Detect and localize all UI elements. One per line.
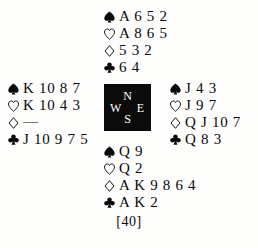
west-hearts-cards: K 10 4 3 [21,98,81,113]
north-spades-cards: A 6 5 2 [117,9,168,24]
heart-icon [104,28,117,40]
north-clubs-cards: 6 4 [117,60,140,75]
east-spades-row: J 4 3 [170,80,241,97]
hand-west: K 10 8 7 K 10 4 3 — J 10 9 7 5 [8,80,88,148]
hand-east: J 4 3 J 9 7 Q J 10 7 Q 8 3 [170,80,241,148]
south-clubs-row: A K 2 [104,194,196,211]
west-diamonds-cards: — [21,114,38,129]
spade-icon [104,11,117,23]
north-diamonds-cards: 5 3 2 [117,43,153,58]
compass-south-label: S [104,113,151,125]
west-hearts-row: K 10 4 3 [8,97,88,114]
south-spades-row: Q 9 [104,143,196,160]
south-diamonds-cards: A K 9 8 6 4 [117,178,196,193]
east-spades-cards: J 4 3 [183,81,217,96]
east-hearts-cards: J 9 7 [183,98,217,113]
hand-south: Q 9 Q 2 A K 9 8 6 4 A K 2 [104,143,196,211]
south-clubs-cards: A K 2 [117,195,158,210]
north-hearts-cards: A 8 6 5 [117,26,168,41]
west-clubs-row: J 10 9 7 5 [8,131,88,148]
north-clubs-row: 6 4 [104,59,168,76]
south-hearts-cards: Q 2 [117,161,143,176]
deal-caption: [40] [0,214,258,230]
east-hearts-row: J 9 7 [170,97,241,114]
diamond-icon [170,117,183,129]
north-hearts-row: A 8 6 5 [104,25,168,42]
south-spades-cards: Q 9 [117,144,143,159]
hand-north: A 6 5 2 A 8 6 5 5 3 2 6 4 [104,8,168,76]
north-spades-row: A 6 5 2 [104,8,168,25]
compass-east-label: E [137,102,144,114]
club-icon [104,197,117,209]
diamond-icon [104,45,117,57]
compass-box: N W E S [104,84,151,131]
diamond-icon [104,180,117,192]
west-diamonds-row: — [8,114,88,131]
spade-icon [8,83,21,95]
north-diamonds-row: 5 3 2 [104,42,168,59]
west-spades-cards: K 10 8 7 [21,81,81,96]
diamond-icon [8,117,21,129]
heart-icon [170,100,183,112]
east-diamonds-row: Q J 10 7 [170,114,241,131]
compass-west-label: W [110,102,121,114]
spade-icon [104,146,117,158]
spade-icon [170,83,183,95]
club-icon [104,62,117,74]
bridge-deal-diagram: A 6 5 2 A 8 6 5 5 3 2 6 4 K 10 8 7 [0,0,258,248]
east-diamonds-cards: Q J 10 7 [183,115,241,130]
west-clubs-cards: J 10 9 7 5 [21,132,88,147]
heart-icon [8,100,21,112]
heart-icon [104,163,117,175]
club-icon [8,134,21,146]
south-diamonds-row: A K 9 8 6 4 [104,177,196,194]
south-hearts-row: Q 2 [104,160,196,177]
west-spades-row: K 10 8 7 [8,80,88,97]
